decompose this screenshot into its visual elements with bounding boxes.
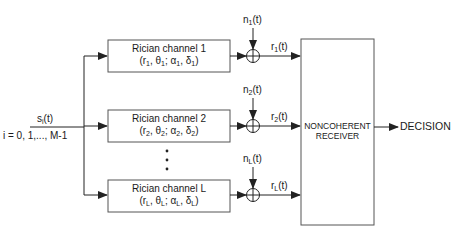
noise-label-2: n2(t) [243, 84, 262, 95]
noise-label-1: n1(t) [243, 14, 262, 25]
input-signal-label: si(t) [37, 113, 53, 124]
receiver-line-1: NONCOHERENT [301, 121, 374, 131]
channel-2-params: (r2, θ2; α2, δ2) [108, 125, 230, 137]
received-label-2: r2(t) [271, 111, 288, 122]
channel-1-params: (r1, θ1; α1, δ1) [108, 55, 230, 67]
channel-1-title: Rician channel 1 [108, 43, 230, 55]
channel-1-text: Rician channel 1 (r1, θ1; α1, δ1) [108, 43, 230, 67]
noise-label-L: nL(t) [243, 153, 262, 164]
ellipsis-dot [166, 159, 169, 162]
summer-icon-2 [247, 120, 260, 133]
received-label-L: rL(t) [271, 180, 288, 191]
channel-L-text: Rician channel L (rL, θL; αL, δL) [108, 183, 230, 207]
input-index-range: i = 0, 1,..., M-1 [3, 130, 67, 141]
channel-L-params: (rL, θL; αL, δL) [108, 195, 230, 207]
ellipsis-dot [166, 150, 169, 153]
channel-2-text: Rician channel 2 (r2, θ2; α2, δ2) [108, 113, 230, 137]
ellipsis-dot [166, 168, 169, 171]
channel-L-title: Rician channel L [108, 183, 230, 195]
summer-icon-1 [247, 50, 260, 63]
receiver-label: NONCOHERENT RECEIVER [301, 121, 374, 141]
decision-label: DECISION [400, 121, 451, 132]
diagram-lines [0, 0, 460, 248]
received-label-1: r1(t) [271, 41, 288, 52]
channel-2-title: Rician channel 2 [108, 113, 230, 125]
summer-icon-L [247, 189, 260, 202]
receiver-line-2: RECEIVER [301, 131, 374, 141]
